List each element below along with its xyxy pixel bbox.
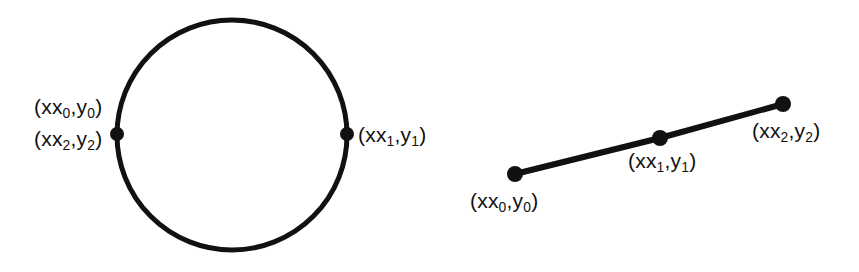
paren-open: (x: [628, 149, 646, 172]
paren-open: (x: [34, 95, 52, 118]
comma-y-symbol: ,y: [507, 189, 524, 212]
x-symbol: x: [376, 123, 387, 146]
x-subscript: 1: [387, 133, 395, 149]
x-symbol: x: [770, 119, 781, 142]
vertex-label-open-p2: (xx2,y2): [752, 120, 820, 141]
y-subscript: 2: [87, 137, 95, 153]
comma-y-symbol: ,y: [665, 149, 682, 172]
vertex-label-closed-p0: (xx0,y0): [34, 96, 102, 117]
vertex-label-open-p0: (xx0,y0): [470, 190, 538, 211]
vertex-dot-open-p2: [775, 96, 791, 112]
closed-polyline-panel: (xx0,y0) (xx2,y2) (xx1,y1): [0, 0, 430, 272]
paren-open: (x: [358, 123, 376, 146]
y-subscript: 0: [523, 199, 531, 215]
figure-root: (xx0,y0) (xx2,y2) (xx1,y1) (xx0,y0) (xx1…: [0, 0, 859, 272]
comma-y-symbol: ,y: [71, 127, 88, 150]
x-symbol: x: [488, 189, 499, 212]
vertex-label-closed-p2: (xx2,y2): [34, 128, 102, 149]
vertex-dot-open-p1: [652, 130, 668, 146]
x-symbol: x: [646, 149, 657, 172]
x-symbol: x: [52, 127, 63, 150]
paren-open: (x: [470, 189, 488, 212]
x-subscript: 1: [657, 159, 665, 175]
comma-y-symbol: ,y: [71, 95, 88, 118]
x-subscript: 0: [63, 105, 71, 121]
y-subscript: 1: [411, 133, 419, 149]
paren-close: ): [813, 119, 820, 142]
vertex-dot-open-p0: [507, 166, 523, 182]
paren-close: ): [531, 189, 538, 212]
x-subscript: 2: [63, 137, 71, 153]
y-subscript: 2: [805, 129, 813, 145]
paren-close: ): [689, 149, 696, 172]
paren-close: ): [95, 127, 102, 150]
vertex-label-open-p1: (xx1,y1): [628, 150, 696, 171]
paren-open: (x: [34, 127, 52, 150]
x-subscript: 0: [499, 199, 507, 215]
paren-open: (x: [752, 119, 770, 142]
paren-close: ): [95, 95, 102, 118]
comma-y-symbol: ,y: [395, 123, 412, 146]
vertex-label-closed-p1: (xx1,y1): [358, 124, 426, 145]
paren-close: ): [419, 123, 426, 146]
comma-y-symbol: ,y: [789, 119, 806, 142]
x-subscript: 2: [781, 129, 789, 145]
x-symbol: x: [52, 95, 63, 118]
y-subscript: 1: [681, 159, 689, 175]
y-subscript: 0: [87, 105, 95, 121]
